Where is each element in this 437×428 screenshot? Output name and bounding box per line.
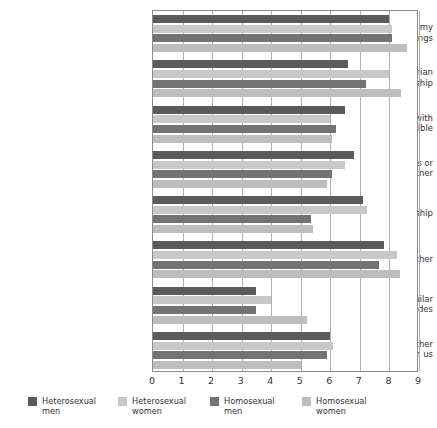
bar <box>153 15 389 23</box>
x-axis-tick-labels: 0123456789 <box>152 375 418 389</box>
bar <box>153 296 271 304</box>
bar <box>153 25 392 33</box>
bar <box>153 215 311 223</box>
bar <box>153 125 336 133</box>
bar-group <box>153 102 417 147</box>
bar <box>153 161 345 169</box>
bar <box>153 225 313 233</box>
bar <box>153 241 384 249</box>
gridline <box>419 11 420 371</box>
chart-legend: Heterosexual menHeterosexual womenHomose… <box>28 396 428 424</box>
bar <box>153 306 256 314</box>
legend-color-swatch <box>302 397 311 406</box>
x-axis-tick-label: 8 <box>378 375 398 386</box>
x-axis-tick-label: 6 <box>319 375 339 386</box>
bar <box>153 361 301 369</box>
legend-item[interactable]: Heterosexual men <box>28 396 96 416</box>
legend-label: Homosexual women <box>316 396 367 416</box>
bar <box>153 316 307 324</box>
bar <box>153 170 332 178</box>
bar <box>153 151 354 159</box>
bar <box>153 332 330 340</box>
bar <box>153 270 400 278</box>
legend-color-swatch <box>28 397 37 406</box>
x-axis-tick-label: 4 <box>260 375 280 386</box>
bar <box>153 261 379 269</box>
legend-item[interactable]: Homosexual men <box>210 396 275 416</box>
bar <box>153 60 348 68</box>
x-axis-tick-label: 9 <box>408 375 428 386</box>
bar <box>153 196 363 204</box>
horizontal-grouped-bar-chart: Being able to talk about mymost intimate… <box>0 0 437 428</box>
bar <box>153 287 256 295</box>
plot-area <box>152 10 418 372</box>
bar-group <box>153 192 417 237</box>
x-axis-tick-label: 0 <box>142 375 162 386</box>
legend-color-swatch <box>118 397 127 406</box>
legend-label: Homosexual men <box>224 396 275 416</box>
legend-label: Heterosexual women <box>132 396 186 416</box>
bar <box>153 135 332 143</box>
legend-item[interactable]: Heterosexual women <box>118 396 186 416</box>
bar-group <box>153 237 417 282</box>
x-axis-tick-label: 3 <box>231 375 251 386</box>
bar <box>153 89 401 97</box>
bar <box>153 70 389 78</box>
x-axis-tick-label: 5 <box>290 375 310 386</box>
bar <box>153 351 327 359</box>
bar <box>153 180 327 188</box>
bar <box>153 251 397 259</box>
bar <box>153 34 392 42</box>
bar-group <box>153 283 417 328</box>
legend-item[interactable]: Homosexual women <box>302 396 367 416</box>
x-axis-tick-label: 7 <box>349 375 369 386</box>
x-axis-tick-label: 1 <box>172 375 192 386</box>
x-axis-tick-label: 2 <box>201 375 221 386</box>
bar <box>153 206 367 214</box>
bar <box>153 115 330 123</box>
bar-group <box>153 56 417 101</box>
bar <box>153 106 345 114</box>
legend-label: Heterosexual men <box>42 396 96 416</box>
bar <box>153 80 366 88</box>
bar-group <box>153 11 417 56</box>
legend-color-swatch <box>210 397 219 406</box>
bar <box>153 342 333 350</box>
bar-group <box>153 328 417 373</box>
bar-group <box>153 147 417 192</box>
bar <box>153 44 407 52</box>
